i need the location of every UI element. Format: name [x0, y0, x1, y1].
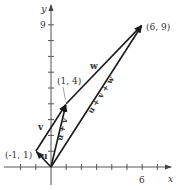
y-tick-label-9: 9 [40, 20, 46, 30]
vectors [36, 26, 142, 167]
point-label-neg1-1: (-1, 1) [5, 150, 32, 160]
vector-label-u: u [41, 151, 48, 161]
vector-label-v: v [37, 122, 44, 132]
x-axis-label: x [168, 174, 173, 184]
vector-addition-diagram: y 9 x 6 (-1, 1) (1, 4) (6, 9) u v w u + … [0, 0, 176, 190]
x-tick-label-6: 6 [139, 175, 145, 185]
vector-label-w: w [89, 61, 98, 71]
y-axis-label: y [40, 3, 47, 14]
point-label-1-4: (1, 4) [57, 76, 81, 86]
point-label-leader [63, 87, 66, 100]
x-axis [4, 164, 171, 170]
point-label-6-9: (6, 9) [146, 22, 170, 32]
